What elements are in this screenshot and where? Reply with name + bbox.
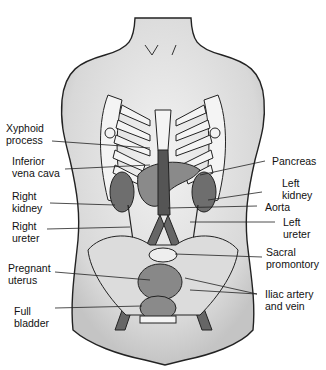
label-left-kidney: Left kidney [282, 177, 312, 201]
label-right-kidney: Right kidney [12, 190, 42, 214]
label-pregnant-uterus: Pregnant uterus [8, 262, 51, 286]
label-full-bladder: Full bladder [14, 305, 49, 329]
label-inferior-vena-cava: Inferior vena cava [12, 155, 60, 179]
label-xyphoid-process: Xyphoid process [6, 122, 44, 146]
label-left-ureter: Left ureter [283, 216, 310, 240]
label-right-ureter: Right ureter [12, 220, 39, 244]
label-pancreas: Pancreas [272, 155, 316, 167]
label-aorta: Aorta [265, 201, 290, 213]
label-iliac-artery-vein: Iliac artery and vein [265, 288, 313, 312]
label-sacral-promontory: Sacral promontory [266, 246, 319, 270]
